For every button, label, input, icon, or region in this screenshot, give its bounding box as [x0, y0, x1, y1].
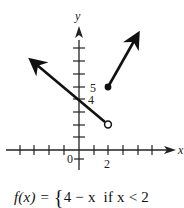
- piece-4-minus-x: [31, 60, 111, 128]
- piecewise-formula: f(x) = {4 − x if x < 2: [14, 186, 149, 208]
- x-tick-label-2: 2: [104, 157, 110, 171]
- y-axis-arrow-icon: [75, 26, 83, 38]
- formula-row1-cond: if x < 2: [104, 189, 149, 205]
- formula-brace: {: [54, 186, 64, 208]
- closed-endpoint-icon: [105, 84, 112, 91]
- y-axis: y 5 4: [73, 9, 96, 170]
- piecewise-function-graph: x 2 0 y 5 4: [0, 0, 184, 208]
- y-tick-label-4: 4: [88, 93, 94, 107]
- open-endpoint-icon: [105, 121, 112, 128]
- piece-x-plus-3: [105, 34, 138, 90]
- y-axis-label: y: [74, 9, 81, 23]
- origin-label: 0: [67, 152, 73, 166]
- x-axis-label: x: [177, 143, 184, 157]
- formula-row1-expr: 4 − x: [64, 189, 96, 205]
- x-axis: x 2 0: [6, 143, 184, 171]
- formula-lhs: f(x) =: [14, 189, 54, 205]
